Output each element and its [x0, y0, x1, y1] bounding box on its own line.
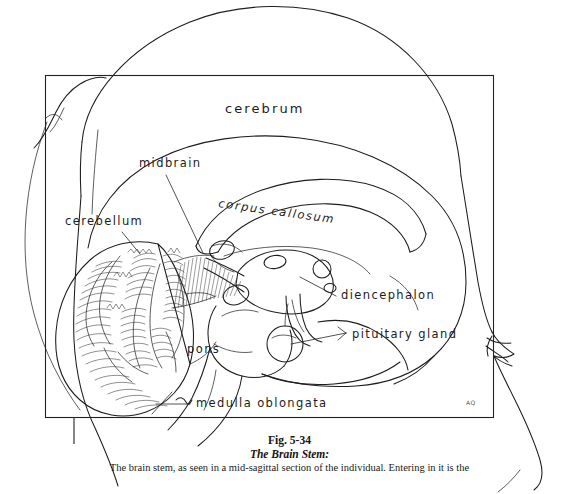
label-corpus-callosum: corpus callosum: [218, 196, 336, 226]
caption-figure-number: Fig. 5-34: [0, 434, 579, 447]
figure-page: cerebrum midbrain corpus callosum cerebe…: [0, 0, 579, 494]
diencephalon-structures: [236, 250, 336, 346]
label-cerebellum: cerebellum: [65, 214, 143, 228]
figure-caption: Fig. 5-34 The Brain Stem: The brain stem…: [0, 434, 579, 474]
figure-frame: [46, 76, 494, 445]
midbrain-structures: [172, 238, 251, 309]
head-profile-outline: [25, 6, 461, 486]
artist-signature: AQ: [466, 399, 476, 406]
label-pituitary-gland: pituitary gland: [352, 327, 457, 341]
label-midbrain: midbrain: [139, 156, 201, 170]
label-cerebrum: cerebrum: [225, 101, 305, 116]
caption-figure-title: The Brain Stem:: [0, 447, 579, 461]
caption-body-line: The brain stem, as seen in a mid-sagitta…: [0, 461, 579, 474]
cerebellum-shape: [56, 242, 216, 416]
label-medulla-oblongata: medulla oblongata: [196, 396, 328, 410]
cerebellum-lower-folia: [121, 308, 176, 367]
pituitary-gland-shape: [267, 304, 303, 362]
cerebrum-outline: [88, 136, 466, 387]
pons-shape: [208, 306, 292, 378]
label-pons: pons: [187, 342, 220, 356]
brain-stem-diagram: cerebrum midbrain corpus callosum cerebe…: [0, 0, 579, 494]
cerebellum-folia-hatch: [76, 261, 167, 409]
label-diencephalon: diencephalon: [341, 288, 435, 302]
